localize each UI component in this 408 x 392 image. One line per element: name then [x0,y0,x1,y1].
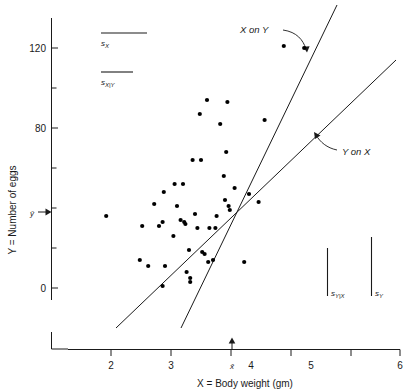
y-axis-ticks [52,48,59,288]
scatter-point [179,218,183,222]
scatter-point [195,226,199,230]
ruler-s-x-label: sX [101,39,110,49]
annotation-x-on-y: X on Y [239,24,310,53]
annotation-x-on-y-label: X on Y [239,24,269,35]
annotation-x-on-y-arrow [283,30,306,49]
scatter-point [199,158,203,162]
scatter-point [188,280,192,284]
plot-canvas: 120 80 0 ŷ Y = Number of eggs 2 3 4 5 6 [0,0,408,392]
scatter-plot-figure: 120 80 0 ŷ Y = Number of eggs 2 3 4 5 6 [0,0,408,392]
annotation-y-on-x-arrow [316,135,337,150]
annotation-y-on-x-label: Y on X [342,146,371,157]
scatter-point [161,284,165,288]
y-tick-label-0: 0 [40,283,46,294]
ruler-s-x: sX [101,33,147,49]
scatter-point [211,258,215,262]
scatter-point [173,182,177,186]
regression-line-y-on-x [116,60,396,328]
scatter-point [227,204,231,208]
ruler-s-x-given-y-label: sX|Y [101,78,116,88]
scatter-point [242,260,246,264]
scatter-point [183,222,187,226]
scatter-point [157,224,161,228]
scatter-point [171,234,175,238]
annotation-y-on-x: Y on X [314,132,371,157]
scatter-point [282,44,286,48]
corner-bracket [52,332,69,349]
scatter-point [146,264,150,268]
scatter-point [203,252,207,256]
scatter-point [162,190,166,194]
scatter-point [302,46,306,50]
scatter-point [198,112,202,116]
ruler-s-y-given-x-label: sY|X [331,289,346,299]
scatter-point [247,192,251,196]
scatter-point [185,270,189,274]
x-mean-marker: x̄ [229,338,236,372]
x-tick-label-5: 5 [308,360,314,371]
scatter-point [181,182,185,186]
y-tick-label-80: 80 [35,123,47,134]
x-axis-title: X = Body weight (gm) [197,378,293,389]
scatter-point [224,150,228,154]
y-mean-marker: ŷ [29,209,52,218]
x-tick-label-6: 6 [397,360,403,371]
scatter-point [175,204,179,208]
scatter-point [161,220,165,224]
scatter-point [138,258,142,262]
scatter-point [163,264,167,268]
ruler-s-y-given-x: sY|X [328,248,346,299]
x-axis-ticks [111,350,400,357]
y-axis-title: Y = Number of eggs [7,165,18,254]
scatter-point [225,100,229,104]
scatter-point [213,226,217,230]
regression-line-x-on-y [181,5,337,328]
ruler-s-y: sY [372,237,385,299]
scatter-point [207,226,211,230]
scatter-point [218,122,222,126]
scatter-point [223,198,227,202]
x-tick-label-3: 3 [168,360,174,371]
x-mean-label: x̄ [229,362,235,371]
scatter-point [104,214,108,218]
scatter-point [233,186,237,190]
scatter-point [263,118,267,122]
scatter-point [222,174,226,178]
scatter-point [206,260,210,264]
y-mean-label: ŷ [29,209,35,218]
scatter-point [193,212,197,216]
ruler-s-x-given-y: sX|Y [101,72,133,88]
scatter-point [205,98,209,102]
scatter-point [257,200,261,204]
scatter-point [140,224,144,228]
x-tick-label-2: 2 [108,360,114,371]
x-tick-label-4: 4 [248,360,254,371]
scatter-point [191,158,195,162]
scatter-point [228,208,232,212]
y-tick-label-120: 120 [29,43,46,54]
scatter-point [215,214,219,218]
scatter-points-layer [104,44,306,288]
scatter-point [152,202,156,206]
ruler-s-y-label: sY [375,289,384,299]
scatter-point [187,248,191,252]
scatter-point [188,276,192,280]
